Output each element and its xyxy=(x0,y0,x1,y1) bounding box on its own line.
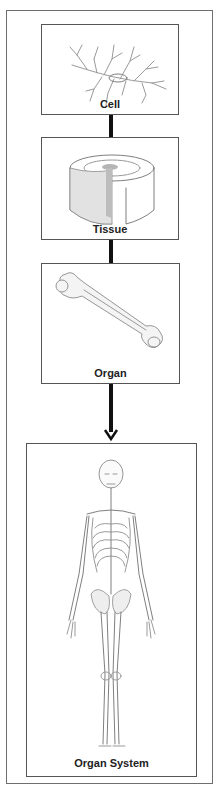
level-label-cell: Cell xyxy=(42,98,178,110)
connector-cell-tissue xyxy=(109,115,113,137)
organ-system-box: Organ System xyxy=(26,443,197,777)
connector-organ-system xyxy=(109,384,113,432)
level-label-organ: Organ xyxy=(42,367,179,379)
level-label-tissue: Tissue xyxy=(42,223,178,235)
cell-box: Cell xyxy=(41,24,179,115)
tissue-box: Tissue xyxy=(41,137,179,240)
skeleton-icon xyxy=(27,444,198,778)
organ-box: Organ xyxy=(41,263,180,384)
arrow-head-icon xyxy=(103,429,119,441)
connector-tissue-organ xyxy=(109,240,113,263)
level-label-organ-system: Organ System xyxy=(27,757,196,769)
